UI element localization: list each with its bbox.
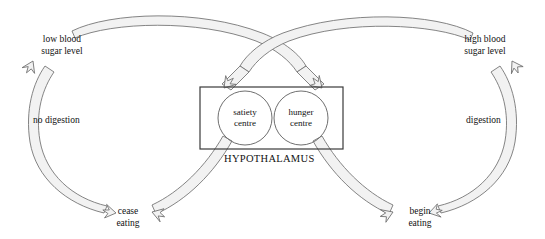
label-cease-eating-line1: cease bbox=[106, 206, 150, 218]
arc-begin-eating-to-high-blood-sugar bbox=[438, 66, 517, 213]
label-cease-eating-line2: eating bbox=[106, 218, 150, 230]
label-digestion: digestion bbox=[466, 115, 501, 127]
arrowhead-high-blood-sugar bbox=[506, 58, 524, 76]
label-high-blood-sugar-line2: sugar level bbox=[443, 46, 527, 58]
label-satiety-centre-line2: centre bbox=[218, 118, 272, 129]
label-hunger-centre-line1: hunger bbox=[274, 107, 328, 118]
arrowheads bbox=[21, 58, 525, 224]
label-low-blood-sugar-line2: sugar level bbox=[22, 46, 102, 58]
label-hunger-centre: hunger centre bbox=[274, 107, 328, 129]
label-begin-eating-line2: eating bbox=[398, 218, 442, 230]
label-high-blood-sugar-line1: high blood bbox=[443, 34, 527, 46]
label-hunger-centre-line2: centre bbox=[274, 118, 328, 129]
label-hypothalamus: HYPOTHALAMUS bbox=[224, 153, 315, 165]
arc-satiety-to-cease-eating bbox=[152, 136, 232, 214]
label-cease-eating: cease eating bbox=[106, 206, 150, 229]
label-low-blood-sugar-line1: low blood bbox=[22, 34, 102, 46]
arc-hunger-to-begin-eating bbox=[313, 136, 393, 214]
arrowhead-low-blood-sugar bbox=[21, 58, 39, 76]
label-no-digestion: no digestion bbox=[33, 115, 80, 127]
label-satiety-centre-line1: satiety bbox=[218, 107, 272, 118]
label-high-blood-sugar: high blood sugar level bbox=[443, 34, 527, 57]
label-low-blood-sugar: low blood sugar level bbox=[22, 34, 102, 57]
label-begin-eating: begin eating bbox=[398, 206, 442, 229]
label-begin-eating-line1: begin bbox=[398, 206, 442, 218]
arc-cease-eating-to-low-blood-sugar bbox=[28, 66, 107, 213]
diagram-canvas: low blood sugar level high blood sugar l… bbox=[0, 0, 545, 239]
arc-to-high-blood-sugar bbox=[240, 17, 473, 72]
label-satiety-centre: satiety centre bbox=[218, 107, 272, 129]
